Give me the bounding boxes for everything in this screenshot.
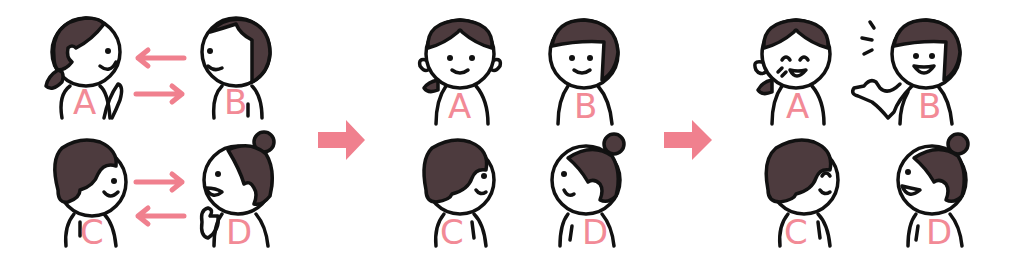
panel-1: A B C [46, 18, 274, 252]
transition-arrow-1 [318, 120, 365, 160]
label-a: A [786, 86, 809, 126]
label-b: B [918, 86, 941, 126]
arrow-d-to-c [138, 208, 184, 224]
label-c: C [80, 212, 104, 252]
conversation-illustration: A B C [0, 0, 1009, 264]
character-a: A [46, 18, 122, 122]
label-c: C [440, 212, 464, 252]
character-c: C [424, 140, 494, 252]
label-b: B [224, 82, 247, 122]
arrow-a-to-b [136, 86, 182, 102]
character-d: D [898, 134, 968, 252]
character-b: B [853, 20, 960, 126]
label-a: A [448, 86, 471, 126]
character-c: C [766, 140, 838, 252]
character-a: A [755, 20, 830, 126]
character-c: C [55, 140, 126, 252]
label-d: D [926, 212, 952, 252]
arrow-b-to-a [138, 50, 184, 66]
label-b: B [574, 86, 597, 126]
transition-arrow-2 [664, 120, 712, 160]
character-a: A [420, 20, 501, 126]
character-b: B [550, 20, 618, 126]
character-d: D [552, 134, 624, 252]
panel-2: A B C [420, 20, 624, 252]
character-b: B [202, 18, 270, 122]
panel-3: A B C [755, 20, 968, 252]
label-d: D [582, 212, 608, 252]
label-d: D [226, 212, 252, 252]
character-d: D [202, 132, 274, 252]
label-c: C [784, 212, 808, 252]
label-a: A [73, 82, 96, 122]
arrow-c-to-d [136, 174, 182, 190]
